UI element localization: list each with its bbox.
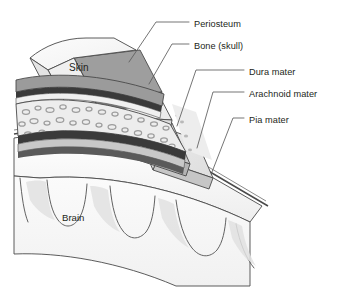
label-skin: Skin xyxy=(69,62,88,73)
label-periosteum: Periosteum xyxy=(194,19,241,29)
leader-line-pia xyxy=(212,118,244,172)
label-brain: Brain xyxy=(62,212,84,223)
label-bone-skull: Bone (skull) xyxy=(194,41,243,51)
diagram-illustration xyxy=(0,0,339,288)
label-dura-mater: Dura mater xyxy=(249,67,295,77)
meninges-diagram: Periosteum Bone (skull) Dura mater Arach… xyxy=(0,0,339,288)
label-arachnoid-mater: Arachnoid mater xyxy=(249,89,317,99)
label-pia-mater: Pia mater xyxy=(249,115,289,125)
